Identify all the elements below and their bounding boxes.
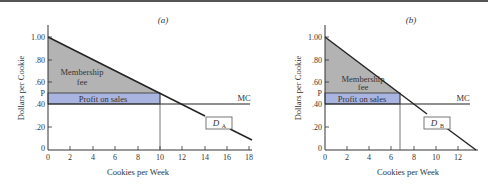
demand-label-b: D	[430, 118, 438, 128]
x-tick-a-6: 6	[113, 153, 117, 162]
profit-label-a: Profit on sales	[79, 94, 128, 104]
charts-canvas: (a) 1.00 .80 .60 P .40 .20 0	[0, 0, 488, 188]
x-tick-a-16: 16	[223, 153, 231, 162]
x-tick-a-14: 14	[201, 153, 209, 162]
demand-line-b-tail	[445, 127, 476, 150]
x-tick-b-6: 6	[389, 153, 393, 162]
y-tick-a-80: .80	[35, 56, 45, 65]
x-tick-a-12: 12	[178, 153, 186, 162]
y-tick-a-60: .60	[35, 78, 45, 87]
chart-b: (b) 1.00 .80 .60 P .40 .20 0 0	[293, 15, 478, 177]
demand-line-a-tail	[230, 129, 252, 140]
x-tick-a-4: 4	[91, 153, 95, 162]
demand-label-a: D	[212, 118, 220, 128]
membership-fee-label-a-line2: fee	[77, 77, 88, 87]
panel-label-b: (b)	[406, 15, 417, 25]
x-tick-b-10: 10	[432, 153, 440, 162]
x-tick-b-12: 12	[454, 153, 462, 162]
y-tick-a-20: .20	[35, 123, 45, 132]
x-tick-b-8: 8	[412, 153, 416, 162]
y-tick-b-40: .40	[312, 100, 322, 109]
y-tick-b-100: 1.00	[308, 33, 322, 42]
y-label-p-a: P	[41, 89, 46, 98]
x-tick-a-18: 18	[245, 153, 253, 162]
y-tick-b-0: 0	[318, 144, 322, 153]
x-axis-title-a: Cookies per Week	[107, 167, 170, 177]
y-axis-title-b: Dollars per Cookie	[293, 55, 303, 120]
x-axis-title-b: Cookies per Week	[377, 167, 440, 177]
panel-label-a: (a)	[158, 15, 169, 25]
x-tick-b-2: 2	[345, 153, 349, 162]
demand-label-b-sub: B	[440, 123, 444, 129]
x-tick-a-0: 0	[46, 153, 50, 162]
y-tick-b-60: .60	[312, 78, 322, 87]
chart-a: (a) 1.00 .80 .60 P .40 .20 0	[16, 15, 253, 177]
x-tick-b-0: 0	[323, 153, 327, 162]
x-tick-a-8: 8	[136, 153, 140, 162]
x-tick-a-2: 2	[68, 153, 72, 162]
y-label-p-b: P	[318, 89, 323, 98]
y-tick-a-100: 1.00	[31, 33, 45, 42]
mc-label-a: MC	[237, 93, 251, 103]
demand-label-a-sub: A	[222, 123, 227, 129]
profit-label-b: Profit on sales	[338, 94, 387, 104]
y-tick-b-80: .80	[312, 56, 322, 65]
membership-fee-label-b-line2: fee	[358, 82, 369, 92]
mc-label-b: MC	[456, 93, 470, 103]
y-tick-b-20: .20	[312, 123, 322, 132]
membership-fee-label-a-line1: Membership	[61, 67, 104, 77]
y-tick-a-40: .40	[35, 100, 45, 109]
y-tick-a-0: 0	[41, 144, 45, 153]
y-axis-title-a: Dollars per Cookie	[16, 55, 26, 120]
x-tick-b-4: 4	[367, 153, 371, 162]
x-tick-a-10: 10	[156, 153, 164, 162]
